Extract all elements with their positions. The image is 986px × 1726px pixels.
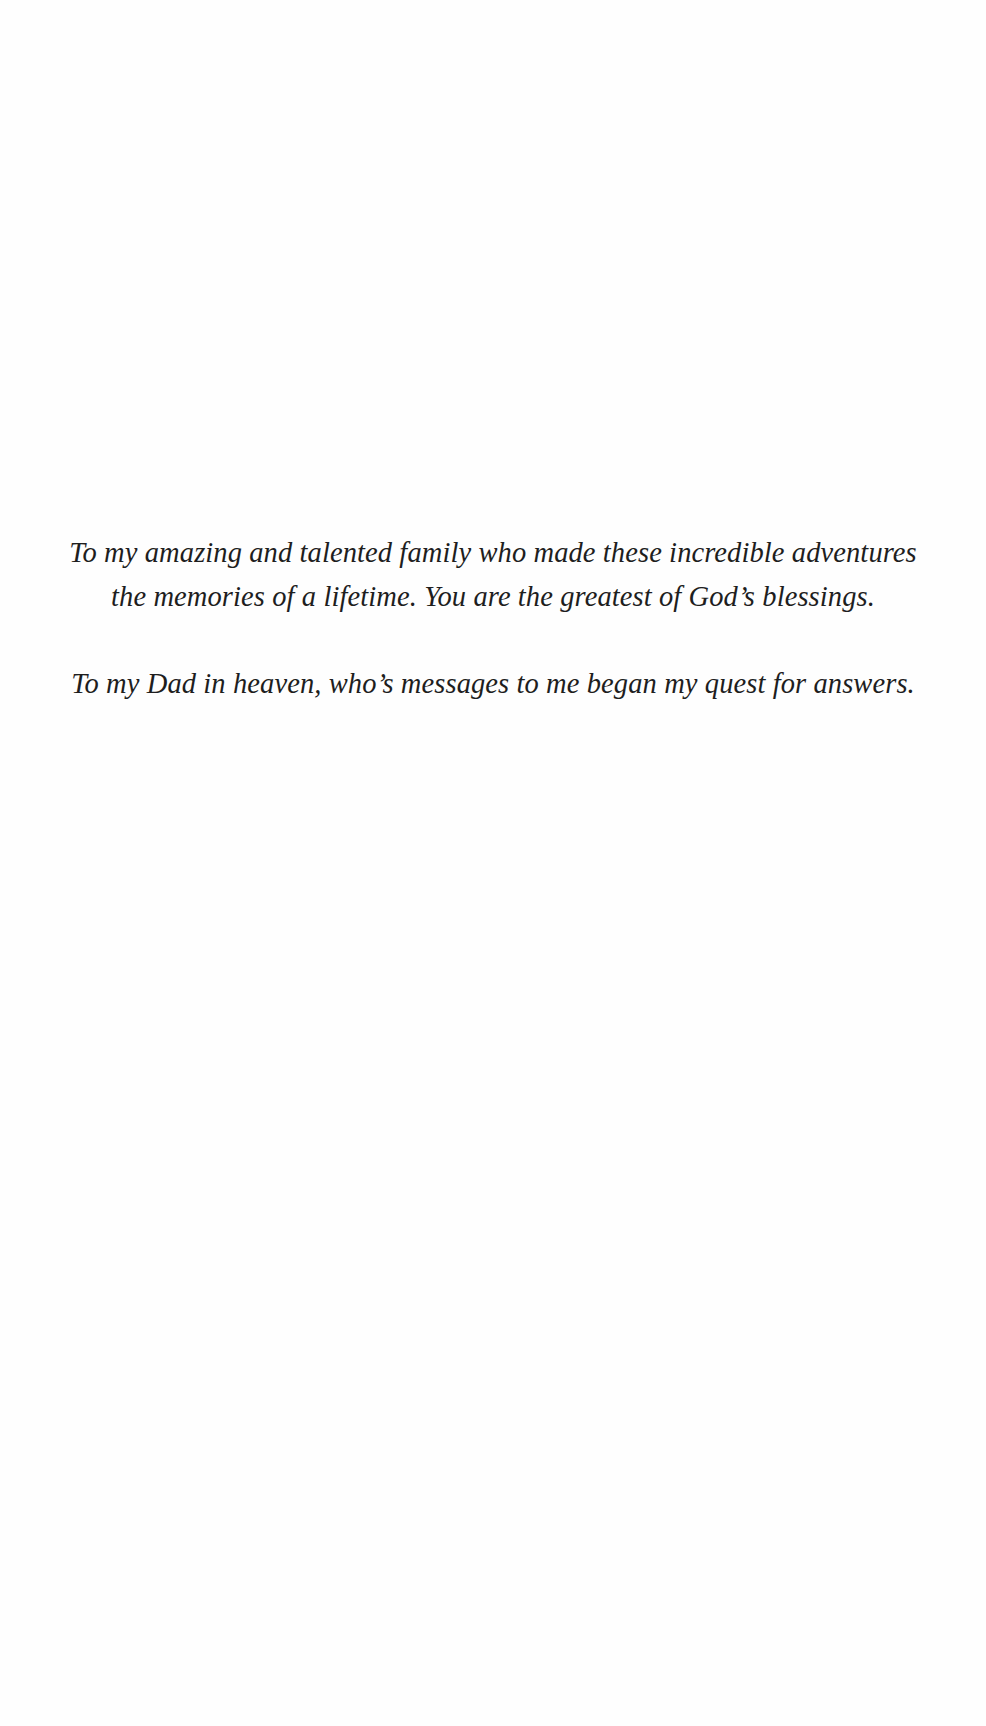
dedication-line: To my Dad in heaven, who’s messages to m… (0, 662, 986, 706)
dedication-paragraph-dad: To my Dad in heaven, who’s messages to m… (0, 662, 986, 706)
dedication-line: the memories of a lifetime. You are the … (0, 575, 986, 619)
dedication-paragraph-family: To my amazing and talented family who ma… (0, 531, 986, 619)
dedication-page: To my amazing and talented family who ma… (0, 0, 986, 1726)
dedication-line: To my amazing and talented family who ma… (0, 531, 986, 575)
